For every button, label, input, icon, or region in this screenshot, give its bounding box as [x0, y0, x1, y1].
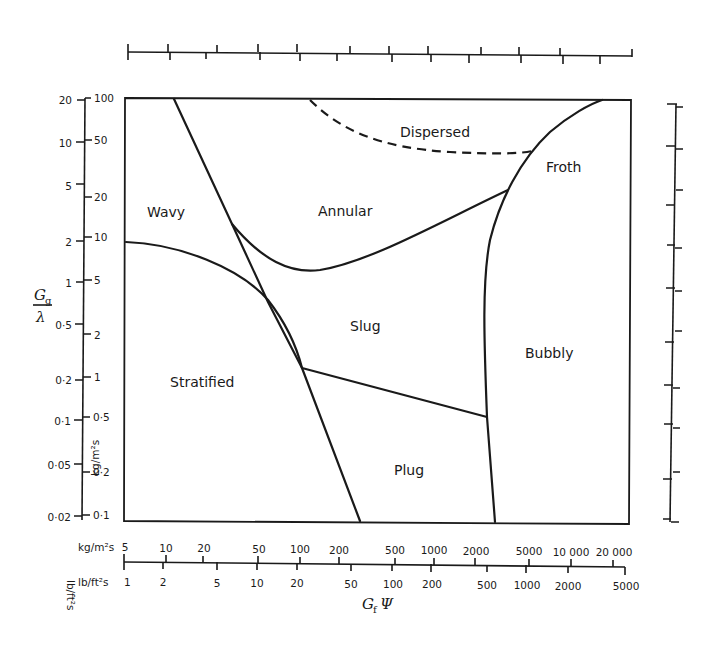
x-axis-title: G f Ψ [362, 595, 394, 615]
svg-text:100: 100 [383, 578, 403, 590]
y-tick-5k: 5 [94, 274, 101, 286]
region-wavy: Wavy [147, 204, 185, 220]
svg-text:f: f [373, 604, 378, 615]
y-tick-10: 10 [59, 137, 72, 149]
svg-text:1000: 1000 [514, 579, 541, 591]
svg-text:50: 50 [344, 578, 357, 590]
y-tick-0.02: 0·02 [48, 511, 71, 523]
region-stratified: Stratified [170, 374, 234, 390]
svg-text:10 000: 10 000 [553, 546, 590, 558]
svg-text:1000: 1000 [421, 544, 448, 556]
svg-text:20: 20 [290, 577, 303, 589]
slug-plug-boundary [302, 368, 487, 417]
svg-text:200: 200 [329, 544, 349, 556]
y-tick-2k: 2 [94, 329, 101, 341]
x-bottom-tick-labels: 1 2 5 10 20 50 100 200 500 1000 2000 500… [124, 576, 639, 592]
y-tick-1k: 1 [94, 371, 101, 383]
right-tick-scale [663, 104, 683, 522]
x-axis-bottom: 5 10 20 50 100 200 500 1000 2000 5000 10… [78, 541, 639, 615]
wavy-annular-slug-line [174, 99, 360, 521]
y-tick-0.5k: 0·5 [93, 411, 110, 423]
y-tick-100: 100 [94, 92, 114, 104]
region-bubbly: Bubbly [525, 345, 573, 361]
y-tick-0.1: 0·1 [54, 415, 71, 427]
y-axis-left: 20 10 5 2 1 0·5 0·2 0·1 0·05 0·02 100 50… [33, 92, 114, 610]
y-tick-10k: 10 [94, 231, 107, 243]
svg-text:20 000: 20 000 [596, 546, 633, 558]
svg-text:1: 1 [124, 576, 131, 588]
svg-text:500: 500 [477, 579, 497, 591]
svg-text:2000: 2000 [463, 545, 490, 557]
region-dispersed: Dispersed [400, 124, 470, 140]
top-tick-scale [128, 44, 632, 64]
region-plug: Plug [394, 462, 424, 478]
y-tick-2: 2 [65, 236, 72, 248]
region-slug: Slug [350, 318, 381, 334]
y-tick-50: 50 [94, 134, 107, 146]
svg-text:2000: 2000 [555, 580, 582, 592]
y-axis-title: G g λ [33, 286, 52, 326]
y-tick-0.5: 0·5 [55, 319, 72, 331]
y-tick-20k: 20 [94, 191, 107, 203]
svg-text:10: 10 [250, 577, 263, 589]
y-unit-lb: lb/ft²s [65, 580, 77, 610]
svg-text:500: 500 [385, 544, 405, 556]
svg-text:5000: 5000 [613, 580, 640, 592]
svg-text:5000: 5000 [516, 545, 543, 557]
y-tick-1: 1 [65, 277, 72, 289]
flow-regime-chart: 20 10 5 2 1 0·5 0·2 0·1 0·05 0·02 100 50… [0, 0, 715, 645]
svg-text:λ: λ [35, 308, 46, 326]
svg-text:100: 100 [290, 543, 310, 555]
y-unit-kg: kg/m²s [89, 440, 101, 476]
svg-text:2: 2 [160, 576, 167, 588]
region-labels: Dispersed Froth Wavy Annular Slug Strati… [147, 124, 581, 478]
svg-text:Ψ: Ψ [380, 595, 394, 613]
regime-boundaries [126, 99, 602, 522]
y-tick-0.2: 0·2 [55, 374, 72, 386]
svg-text:50: 50 [252, 543, 265, 555]
region-annular: Annular [318, 203, 373, 219]
y-tick-20: 20 [59, 94, 72, 106]
x-unit-kg: kg/m²s [78, 541, 114, 553]
y-left-tick-labels: 20 10 5 2 1 0·5 0·2 0·1 0·05 0·02 [48, 94, 72, 523]
y-tick-0.1k: 0·1 [93, 509, 110, 521]
svg-text:10: 10 [159, 542, 172, 554]
svg-text:20: 20 [197, 542, 210, 554]
svg-text:5: 5 [122, 541, 129, 553]
bubbly-boundary [484, 100, 602, 522]
y-tick-0.05: 0·05 [48, 459, 71, 471]
region-froth: Froth [546, 159, 581, 175]
svg-text:5: 5 [214, 577, 221, 589]
x-top-tick-labels: 5 10 20 50 100 200 500 1000 2000 5000 10… [122, 541, 633, 558]
y-tick-5: 5 [65, 180, 72, 192]
x-unit-lb: lb/ft²s [78, 576, 108, 588]
svg-text:200: 200 [422, 578, 442, 590]
